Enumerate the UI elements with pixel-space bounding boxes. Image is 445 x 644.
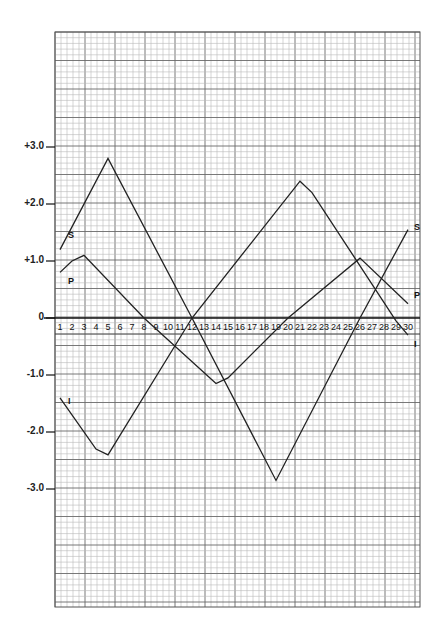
x-tick-label-day: 28: [379, 322, 389, 332]
x-tick-label-day: 24: [331, 322, 341, 332]
y-tick-label: -2.0: [4, 425, 44, 436]
series-label-start-p: P: [68, 276, 74, 286]
x-tick-label-day: 1: [57, 322, 62, 332]
y-tick-label: +1.0: [4, 254, 44, 265]
biorhythm-chart: 1234567891011121314151617181920212223242…: [0, 0, 445, 644]
x-tick-label-day: 25: [343, 322, 353, 332]
x-tick-label-day: 27: [367, 322, 377, 332]
x-tick-label-day: 23: [319, 322, 329, 332]
x-tick-label-day: 5: [105, 322, 110, 332]
x-tick-label-day: 29: [391, 322, 401, 332]
x-tick-label-day: 8: [141, 322, 146, 332]
y-tick-label: -1.0: [4, 368, 44, 379]
y-tick-label: 0: [4, 311, 44, 322]
x-tick-label-day: 14: [211, 322, 221, 332]
x-tick-label-day: 7: [129, 322, 134, 332]
x-tick-label-day: 15: [223, 322, 233, 332]
y-tick-label: +3.0: [4, 140, 44, 151]
x-tick-label-day: 2: [69, 322, 74, 332]
chart-plot-area: 1234567891011121314151617181920212223242…: [0, 0, 445, 644]
x-tick-label-day: 21: [295, 322, 305, 332]
x-tick-label-day: 17: [247, 322, 257, 332]
x-tick-label-day: 4: [93, 322, 98, 332]
series-line-p: [60, 255, 408, 383]
series-label-start-i: I: [68, 396, 71, 406]
x-tick-label-day: 10: [163, 322, 173, 332]
series-label-end-s: S: [414, 222, 420, 232]
series-label-end-i: I: [414, 339, 417, 349]
series-line-s: [60, 158, 408, 480]
x-tick-label-day: 6: [117, 322, 122, 332]
y-tick-label: +2.0: [4, 197, 44, 208]
series-label-start-s: S: [68, 230, 74, 240]
x-tick-label-day: 22: [307, 322, 317, 332]
x-tick-label-day: 11: [175, 322, 184, 332]
x-tick-label-day: 16: [235, 322, 245, 332]
series-label-end-p: P: [414, 290, 420, 300]
grid-border: [55, 32, 420, 607]
y-tick-label: -3.0: [4, 482, 44, 493]
x-tick-label-day: 3: [81, 322, 86, 332]
x-tick-label-day: 20: [283, 322, 293, 332]
x-tick-label-day: 18: [259, 322, 269, 332]
x-tick-label-day: 13: [199, 322, 209, 332]
